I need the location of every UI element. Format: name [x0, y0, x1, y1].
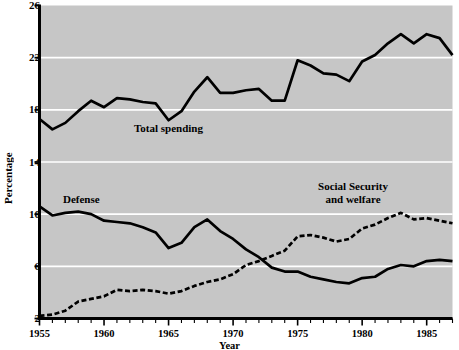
series-label-defense: Defense [63, 193, 100, 206]
series-label-social-security-and-welfare: Social Security and welfare [318, 180, 388, 206]
series-label-total-spending: Total spending [134, 122, 203, 135]
plot-area [0, 0, 459, 350]
chart-figure: Percentage 262218141062 1955196019651970… [0, 0, 459, 350]
